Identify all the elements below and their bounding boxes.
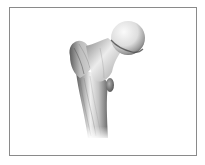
femur-illustration [0,0,205,165]
lesser-trochanter [106,78,114,92]
femoral-head [111,21,145,55]
